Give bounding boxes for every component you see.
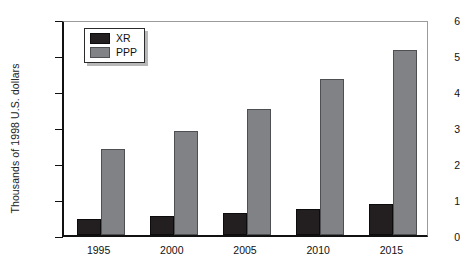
x-tick-label-2005: 2005 [233, 244, 256, 256]
legend-label: PPP [116, 47, 137, 58]
bar-xr-2010 [296, 209, 320, 235]
legend-item-xr: XR [90, 33, 137, 44]
legend-item-ppp: PPP [90, 47, 137, 58]
legend-label: XR [116, 33, 131, 44]
y-axis-title: Thousands of 1998 U.S. dollars [0, 0, 30, 277]
x-tick-label-1995: 1995 [87, 244, 110, 256]
x-tick-label-2000: 2000 [160, 244, 183, 256]
x-tick-label-2015: 2015 [380, 244, 403, 256]
chart-legend: XRPPP [84, 28, 145, 63]
bar-ppp-2005 [247, 109, 271, 235]
legend-swatch-icon [90, 47, 110, 58]
bar-xr-2015 [369, 204, 393, 235]
y-tick-mark [55, 237, 63, 238]
bar-ppp-2015 [393, 50, 417, 235]
bar-xr-2005 [223, 213, 247, 235]
bar-ppp-2010 [320, 79, 344, 235]
bar-ppp-1995 [101, 149, 125, 235]
bar-ppp-2000 [174, 131, 198, 235]
bar-xr-1995 [77, 219, 101, 235]
bar-chart: Thousands of 1998 U.S. dollars 0123456 1… [0, 0, 460, 277]
x-tick-label-2010: 2010 [307, 244, 330, 256]
bar-xr-2000 [150, 216, 174, 235]
legend-swatch-icon [90, 33, 110, 44]
